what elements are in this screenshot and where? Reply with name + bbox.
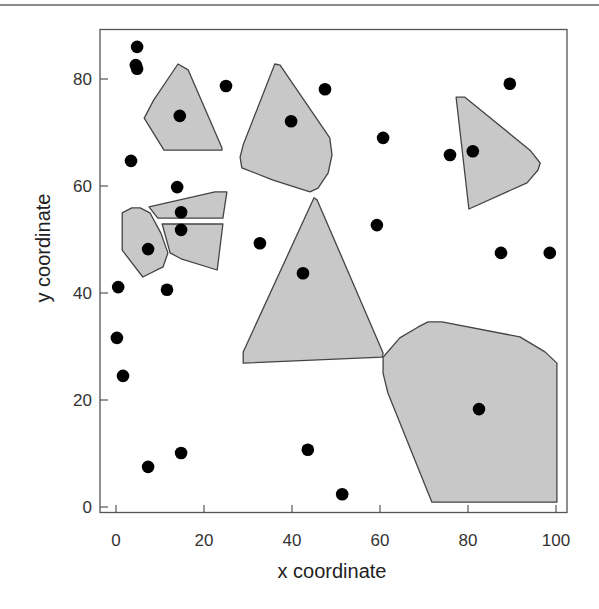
y-tick-label: 0 <box>83 498 92 517</box>
y-axis-title: y coordinate <box>32 194 54 303</box>
data-point <box>131 63 144 76</box>
y-tick-label: 60 <box>73 177 92 196</box>
x-tick-label: 60 <box>371 531 390 550</box>
region-polygon <box>149 192 227 218</box>
data-point <box>175 206 188 219</box>
data-point <box>371 219 384 232</box>
data-point <box>142 243 155 256</box>
data-point <box>336 488 349 501</box>
data-point <box>285 115 298 128</box>
data-point <box>125 155 138 168</box>
data-point <box>111 332 124 345</box>
data-point <box>544 247 557 260</box>
data-point <box>495 247 508 260</box>
x-tick-label: 80 <box>459 531 478 550</box>
data-point <box>297 267 310 280</box>
y-tick-label: 40 <box>73 284 92 303</box>
data-point <box>220 80 233 93</box>
y-tick-label: 80 <box>73 70 92 89</box>
data-point <box>131 41 144 54</box>
x-axis-ticks: 020406080100 <box>111 505 570 550</box>
data-point <box>302 444 315 457</box>
data-point <box>467 145 480 158</box>
data-point <box>175 447 188 460</box>
y-tick-label: 20 <box>73 391 92 410</box>
data-point <box>319 83 332 96</box>
x-tick-label: 40 <box>283 531 302 550</box>
data-point <box>254 237 267 250</box>
y-axis-ticks: 020406080 <box>73 70 108 517</box>
region-polygon <box>243 198 383 363</box>
scatter-chart: 020406080100 020406080 x coordinate y co… <box>0 0 599 609</box>
data-point <box>174 110 187 123</box>
polygon-layer <box>122 64 557 502</box>
region-polygon <box>162 224 223 270</box>
region-polygon <box>144 64 222 150</box>
data-point <box>142 461 155 474</box>
data-point <box>504 78 517 91</box>
data-point <box>112 281 125 294</box>
data-point <box>175 224 188 237</box>
region-polygon <box>240 64 332 192</box>
data-point <box>473 403 486 416</box>
x-tick-label: 20 <box>195 531 214 550</box>
data-point <box>117 370 130 383</box>
data-point <box>444 149 457 162</box>
data-point <box>161 284 174 297</box>
x-tick-label: 0 <box>111 531 120 550</box>
x-tick-label: 100 <box>542 531 570 550</box>
data-point <box>171 181 184 194</box>
x-axis-title: x coordinate <box>278 560 387 582</box>
data-point <box>377 132 390 145</box>
region-polygon <box>383 322 557 502</box>
